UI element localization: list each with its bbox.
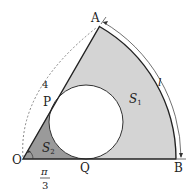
label-B: B [174,161,183,175]
arrowhead-b [179,153,183,158]
label-radius: 4 [42,79,48,90]
label-Q: Q [80,161,90,175]
label-arc-l: l [158,76,162,89]
angle-numerator: π [40,166,48,177]
label-P: P [43,95,51,109]
label-O: O [12,153,22,167]
label-A: A [90,11,100,25]
sector-diagram: A B O P Q 4 l S1 S2 π 3 [0,0,196,195]
angle-denominator: 3 [42,180,48,191]
